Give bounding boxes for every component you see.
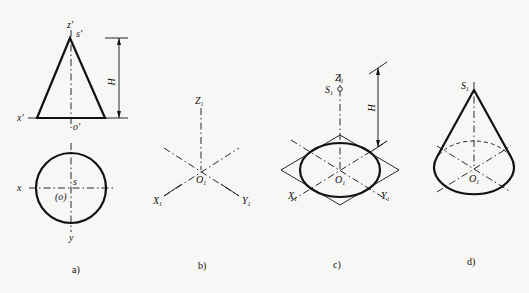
s-label: s	[73, 176, 77, 187]
o1-label: O1	[469, 173, 479, 185]
s-prime-label: s'	[76, 28, 83, 39]
height-label: H	[366, 104, 377, 113]
caption-b: b)	[198, 260, 206, 272]
caption-c: c)	[333, 259, 341, 271]
o-prime-label: o'	[73, 121, 81, 132]
x-label: x	[16, 182, 22, 193]
panel-d-completed-cone: S1 O1	[434, 80, 514, 194]
z1-label: Z1	[335, 72, 344, 84]
apex-point-icon	[338, 87, 343, 92]
y1-axis-segment	[221, 184, 239, 196]
panel-a-front-view: H z' s' x' o'	[16, 19, 128, 132]
x-prime-label: x'	[16, 112, 24, 123]
panel-b-isometric-axes: Z1 X1 Y1 O1	[152, 95, 251, 207]
height-label: H	[106, 78, 117, 87]
s1-label: S1	[461, 80, 469, 92]
panel-a-top-view: x y s (o)	[16, 143, 115, 243]
s1-label: S1	[325, 84, 333, 96]
y1-label: Y1	[242, 195, 251, 207]
x1-axis-segment	[164, 184, 182, 196]
z1-label: Z1	[195, 95, 204, 107]
caption-a: a)	[72, 264, 80, 276]
o1-label: O1	[335, 174, 345, 186]
arrow-up-icon	[117, 38, 121, 45]
arrow-down-icon	[117, 111, 121, 118]
panel-c-isometric-construction: H Z1 S1 X1 Y1 O1	[281, 62, 399, 205]
cone-isometric-figure: H z' s' x' o' x y s (o) a) Z1 X1 Y1 O1 b…	[0, 0, 529, 293]
x1-label: X1	[287, 190, 297, 202]
caption-d: d)	[467, 256, 475, 268]
y-label: y	[68, 232, 74, 243]
o-label: (o)	[55, 191, 67, 203]
o1-label: O1	[196, 174, 206, 186]
z-prime-label: z'	[66, 19, 74, 30]
y1-label: Y1	[381, 190, 390, 202]
x1-label: X1	[152, 195, 162, 207]
